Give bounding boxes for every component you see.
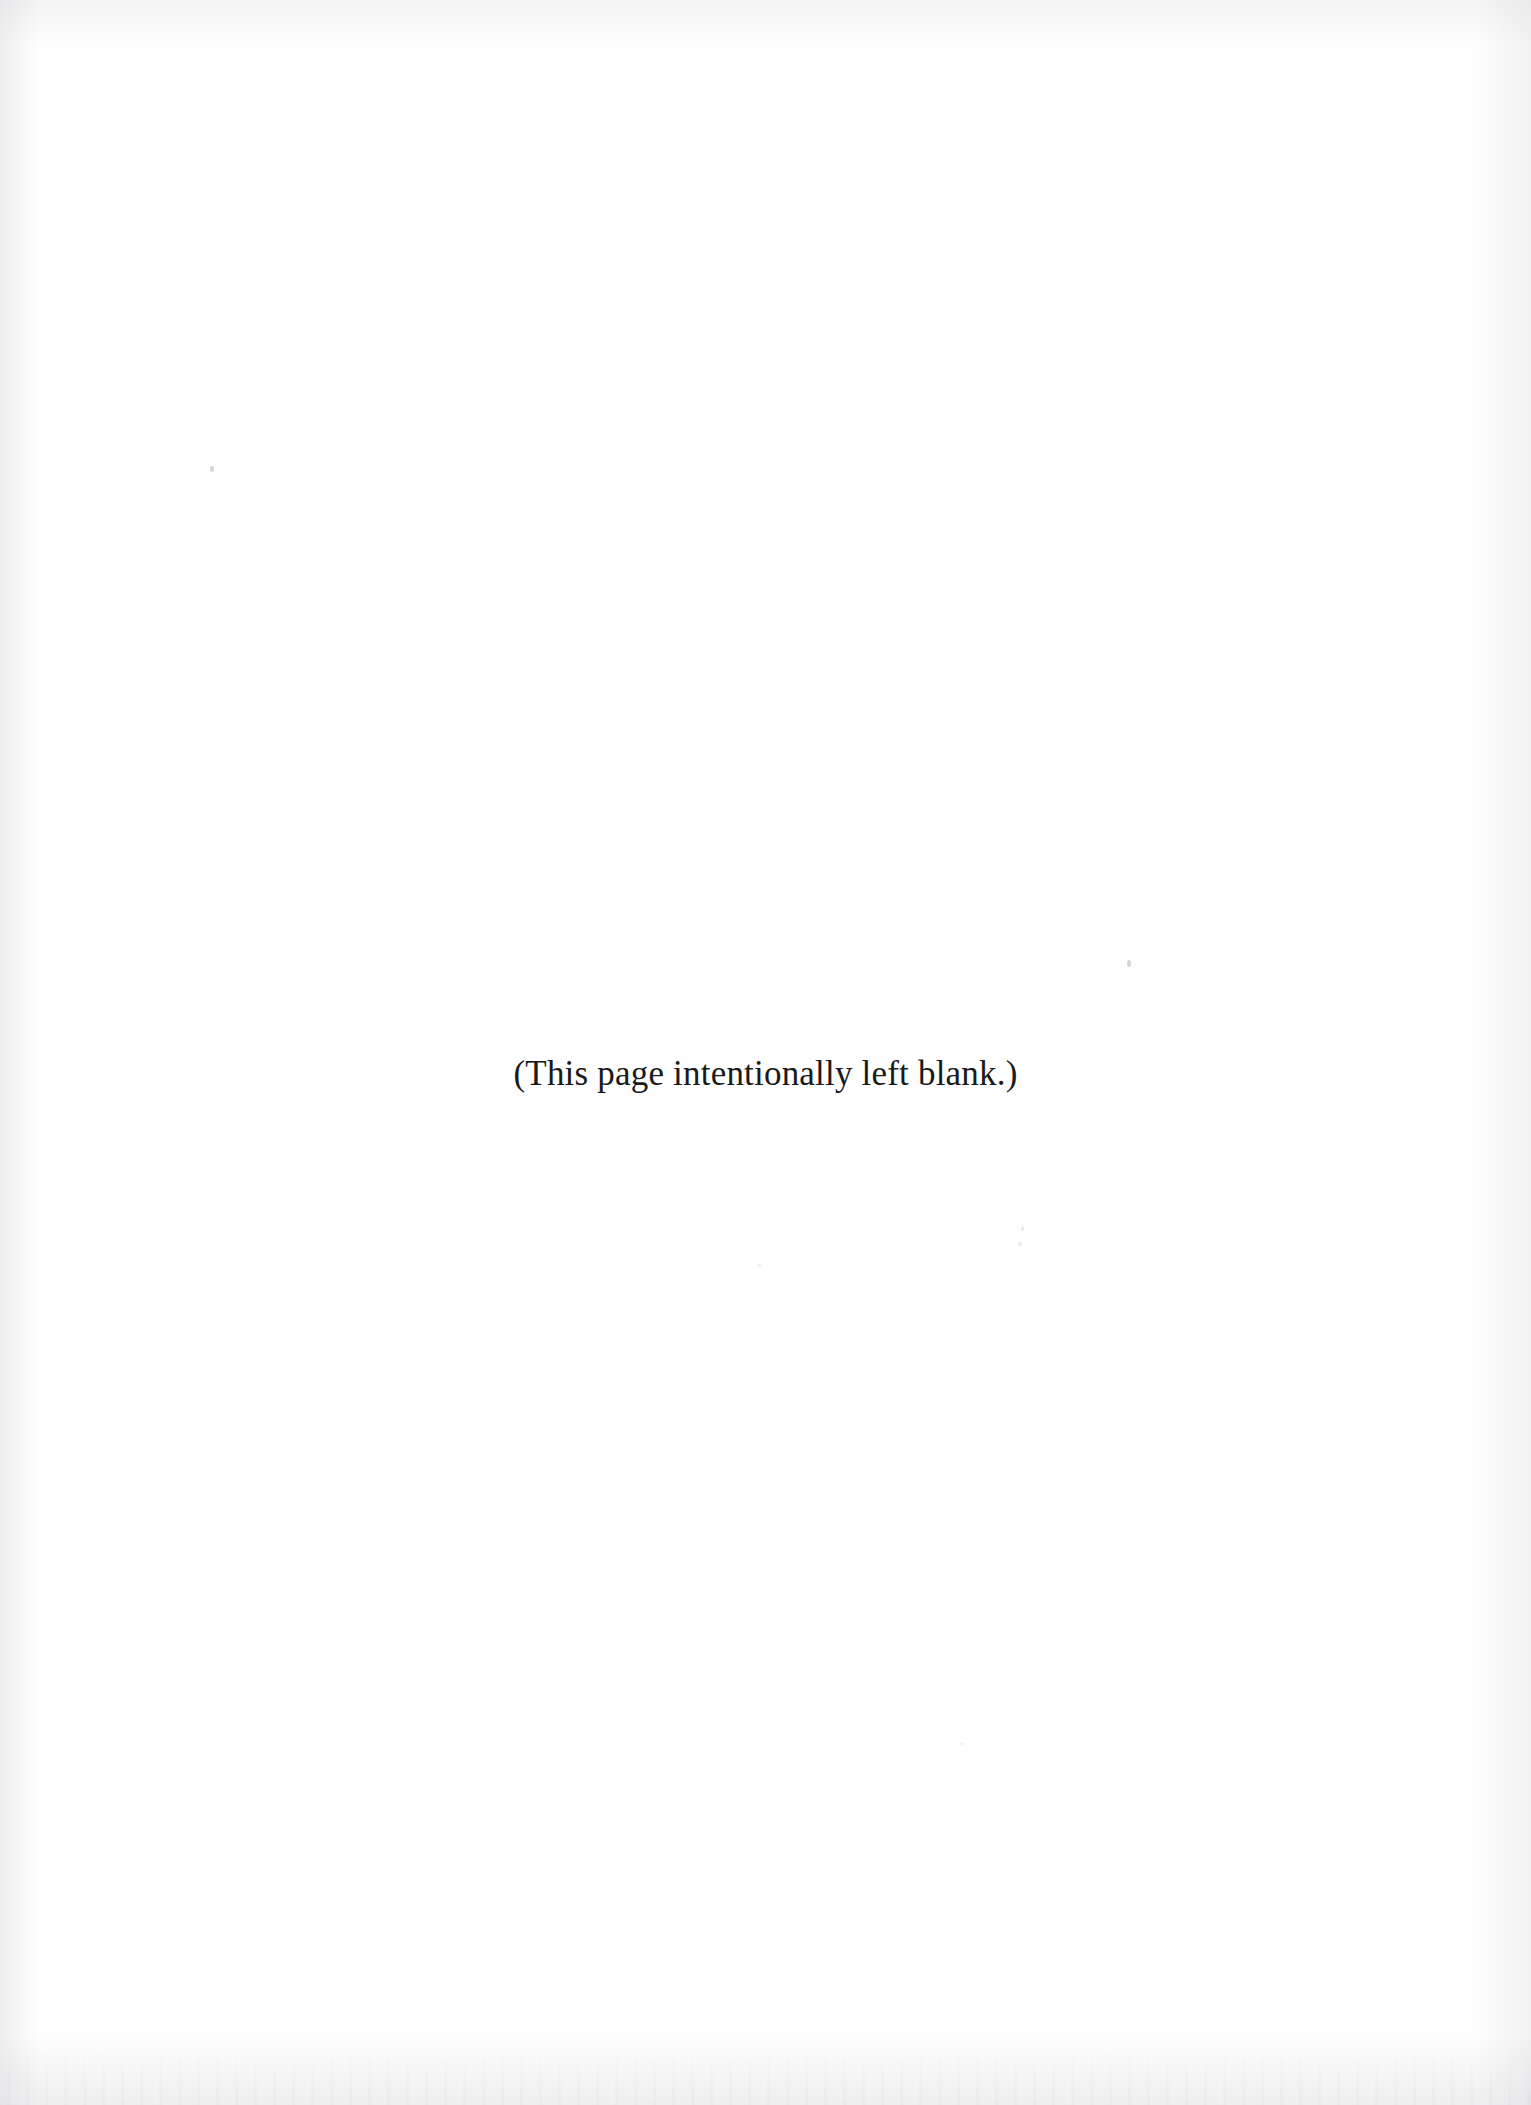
scan-speck (1127, 960, 1131, 967)
scan-streak-noise (0, 2045, 1531, 2105)
scan-edge-shading-top (0, 0, 1531, 45)
scan-speck (960, 1742, 964, 1745)
scan-speck (1021, 1226, 1024, 1231)
scan-edge-shading-bottom (0, 2035, 1531, 2105)
document-page: (This page intentionally left blank.) (0, 0, 1531, 2105)
scan-speck (757, 1264, 762, 1267)
scan-speck (1018, 1242, 1022, 1246)
scan-speck (210, 466, 214, 472)
intentionally-blank-notice: (This page intentionally left blank.) (0, 1053, 1531, 1095)
